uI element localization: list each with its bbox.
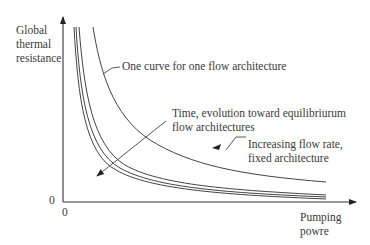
- leader-increasing-flow: [226, 137, 246, 150]
- annotation-increasing-flow-line-2: fixed architecture: [248, 151, 343, 165]
- x-axis-label: Pumping powre: [300, 210, 342, 238]
- y-axis-label-line-2: thermal: [16, 37, 61, 51]
- y-axis-label-line-1: Global: [16, 23, 61, 37]
- annotation-time-evolution-line-1: Time, evolution toward equilibriurum: [172, 106, 346, 120]
- y-origin-label: 0: [49, 194, 55, 208]
- y-axis-label: Global thermal resistance: [16, 23, 61, 65]
- leader-one-curve: [103, 67, 120, 74]
- annotation-one-curve: One curve for one flow architecture: [122, 60, 286, 74]
- annotation-time-evolution: Time, evolution toward equilibriurum flo…: [172, 106, 346, 134]
- annotation-time-evolution-line-2: flow architectures: [172, 120, 346, 134]
- annotation-increasing-flow: Increasing flow rate, fixed architecture: [248, 137, 343, 165]
- x-axis-label-line-1: Pumping: [300, 210, 342, 224]
- x-axis-label-line-2: powre: [300, 224, 342, 238]
- increasing-flow-arrowhead: [212, 144, 221, 150]
- annotation-increasing-flow-line-1: Increasing flow rate,: [248, 137, 343, 151]
- x-origin-label: 0: [62, 206, 68, 220]
- y-axis-label-line-3: resistance: [16, 51, 61, 65]
